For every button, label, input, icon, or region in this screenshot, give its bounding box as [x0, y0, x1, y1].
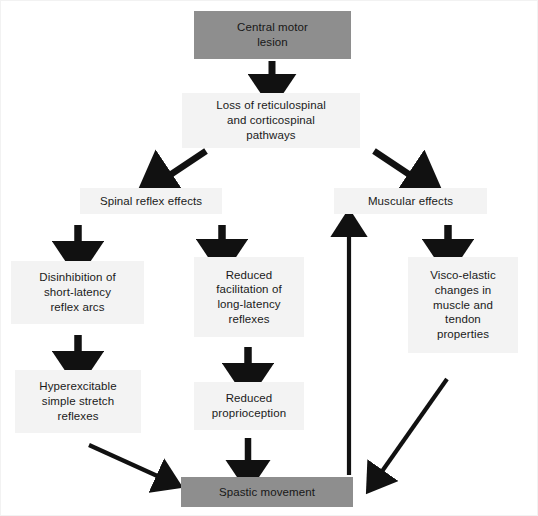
node-reduced-proprioception[interactable]: Reduced proprioception	[194, 382, 304, 430]
arrow-loss-to-spinal	[161, 151, 206, 181]
node-reduced-facilitation[interactable]: Reduced facilitation of long-latency ref…	[194, 257, 304, 337]
arrow-loss-to-muscular	[374, 151, 419, 181]
node-muscular-effects[interactable]: Muscular effects	[334, 188, 487, 214]
node-disinhibition-short-latency[interactable]: Disinhibition of short-latency reflex ar…	[11, 261, 144, 324]
arrow-hyperexcitable-to-spastic	[89, 445, 164, 479]
node-visco-elastic-changes[interactable]: Visco-elastic changes in muscle and tend…	[408, 257, 518, 353]
node-central-motor-lesion[interactable]: Central motor lesion	[194, 11, 351, 59]
node-hyperexcitable-stretch-reflexes[interactable]: Hyperexcitable simple stretch reflexes	[15, 370, 141, 433]
node-spinal-reflex-effects[interactable]: Spinal reflex effects	[80, 188, 222, 214]
arrow-visco-elastic-to-spastic	[378, 379, 447, 477]
node-loss-of-pathways[interactable]: Loss of reticulospinal and corticospinal…	[182, 93, 360, 148]
node-spastic-movement[interactable]: Spastic movement	[181, 477, 353, 507]
flowchart-canvas: Central motor lesion Loss of reticulospi…	[0, 0, 538, 516]
